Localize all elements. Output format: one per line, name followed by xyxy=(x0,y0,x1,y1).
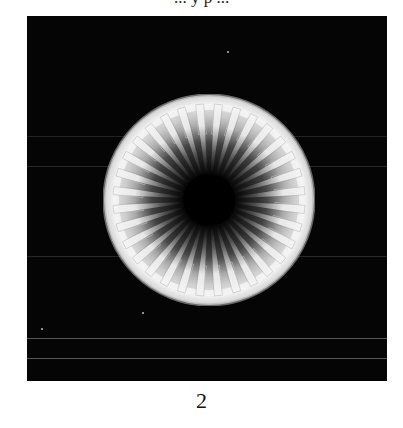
speck xyxy=(142,312,144,314)
top-text-fragment: ... y p ... xyxy=(0,0,403,8)
speck xyxy=(227,51,229,53)
speck xyxy=(41,328,43,330)
scan-line xyxy=(27,338,387,339)
figure-caption: 2 xyxy=(0,388,403,414)
radial-disc xyxy=(103,94,315,306)
scan-line xyxy=(27,358,387,359)
figure-image xyxy=(27,16,387,381)
